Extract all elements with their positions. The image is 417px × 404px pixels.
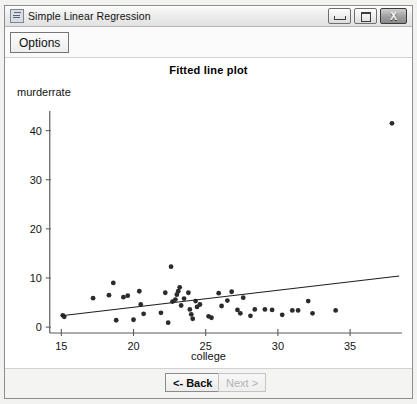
data-point <box>169 264 174 269</box>
data-point <box>141 311 146 316</box>
scanned-page-background: Simple Linear Regression X Options Fitte… <box>0 0 417 404</box>
data-point <box>270 308 275 313</box>
toolbar: Options <box>5 27 412 58</box>
data-point <box>114 318 119 323</box>
data-point <box>179 303 184 308</box>
x-tick-label: 20 <box>127 340 139 352</box>
data-point <box>333 308 338 313</box>
application-window: Simple Linear Regression X Options Fitte… <box>4 5 413 399</box>
data-point <box>159 310 164 315</box>
y-tick-label: 20 <box>30 223 42 235</box>
data-point <box>248 313 253 318</box>
data-point <box>296 308 301 313</box>
window-controls: X <box>328 8 407 24</box>
x-tick-label: 25 <box>200 340 212 352</box>
data-point <box>209 315 214 320</box>
window-title: Simple Linear Regression <box>28 10 151 22</box>
data-point <box>263 307 268 312</box>
data-point <box>290 308 295 313</box>
y-tick-label: 30 <box>30 174 42 186</box>
data-point <box>186 290 191 295</box>
data-point <box>216 291 221 296</box>
plot-panel: Fitted line plot murderrate college 0102… <box>5 58 412 370</box>
data-point <box>241 295 246 300</box>
x-tick-label: 30 <box>272 340 284 352</box>
minimize-button[interactable] <box>328 8 351 24</box>
close-button[interactable]: X <box>380 8 407 24</box>
data-point <box>173 297 178 302</box>
data-point <box>121 295 126 300</box>
data-point <box>177 285 182 290</box>
data-point <box>390 121 395 126</box>
data-point <box>229 289 234 294</box>
data-point <box>182 296 187 301</box>
y-tick-label: 40 <box>30 125 42 137</box>
data-point <box>107 293 112 298</box>
wizard-footer: <- Back Next > <box>5 368 412 398</box>
data-point <box>189 312 194 317</box>
maximize-icon <box>361 12 371 22</box>
back-button[interactable]: <- Back <box>165 373 220 392</box>
maximize-button[interactable] <box>354 8 377 24</box>
y-axis-ticks: 010203040 <box>30 125 51 333</box>
data-point <box>198 302 203 307</box>
data-point-group <box>60 121 394 325</box>
y-tick-label: 10 <box>30 272 42 284</box>
data-point <box>280 312 285 317</box>
data-point <box>252 307 257 312</box>
data-point <box>166 320 171 325</box>
data-point <box>238 311 243 316</box>
data-point <box>131 317 136 322</box>
options-button[interactable]: Options <box>10 32 69 53</box>
data-point <box>111 281 116 286</box>
y-tick-label: 0 <box>36 321 42 333</box>
data-point <box>125 293 130 298</box>
minimize-icon <box>334 16 346 20</box>
scatter-plot: 010203040 1520253035 <box>5 58 412 370</box>
data-point <box>306 299 311 304</box>
next-button: Next > <box>218 373 266 392</box>
close-icon: X <box>381 9 406 23</box>
title-bar: Simple Linear Regression X <box>5 6 412 27</box>
data-point <box>91 296 96 301</box>
x-tick-label: 35 <box>344 340 356 352</box>
data-point <box>190 316 195 321</box>
x-tick-label: 15 <box>55 340 67 352</box>
data-point <box>219 304 224 309</box>
data-point <box>137 289 142 294</box>
data-point <box>187 307 192 312</box>
data-point <box>310 311 315 316</box>
app-icon <box>10 9 24 23</box>
data-point <box>225 298 230 303</box>
data-point <box>163 290 168 295</box>
